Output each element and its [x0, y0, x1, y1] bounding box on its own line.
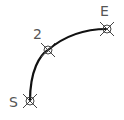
- mid-marker-icon: [41, 43, 55, 57]
- start-label: S: [9, 95, 18, 109]
- end-label: E: [100, 4, 109, 18]
- mid-label: 2: [33, 27, 42, 41]
